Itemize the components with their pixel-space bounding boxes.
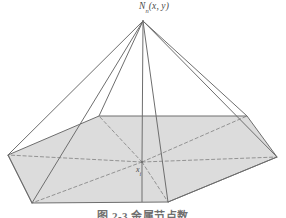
pyramid-diagram	[0, 0, 286, 218]
figure-container: Nn(x, y) xi 图 2-3 金属节点数	[0, 0, 286, 218]
edge-apex-to-top-right	[143, 21, 247, 116]
figure-caption: 图 2-3 金属节点数	[0, 207, 286, 218]
center-node-marker	[141, 161, 143, 163]
edge-apex-to-top-left	[99, 21, 143, 116]
